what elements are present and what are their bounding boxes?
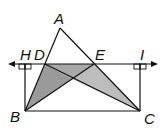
right-angle-marker-i-left [134,64,140,69]
label-e: E [95,46,106,63]
arrow-left-icon [8,61,15,67]
label-d: D [34,46,45,63]
right-angle-marker-h-left [19,64,25,69]
label-b: B [10,108,20,125]
right-angle-marker-i-right [140,64,146,69]
geometry-diagram: A H D E I B C [0,0,168,128]
arrow-right-icon [151,61,158,67]
right-angle-marker-h-right [25,64,31,69]
label-c: C [144,110,155,127]
label-h: H [20,46,31,63]
label-i: I [140,46,144,63]
label-a: A [53,10,64,27]
